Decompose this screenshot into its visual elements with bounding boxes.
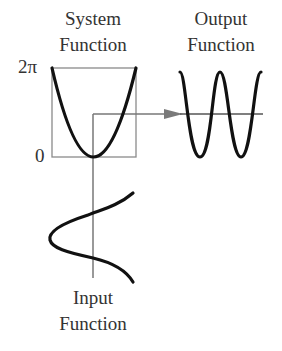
diagram-canvas (0, 0, 282, 351)
input-wave (50, 193, 133, 282)
system-parabola (52, 68, 136, 157)
